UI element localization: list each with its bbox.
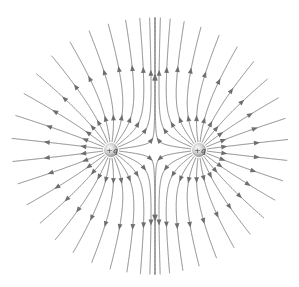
- arrow-icon: [86, 75, 93, 82]
- arrow-icon: [217, 130, 225, 137]
- arrow-icon: [43, 139, 49, 144]
- field-line: [205, 155, 275, 200]
- field-line: [187, 27, 201, 143]
- field-line: [159, 18, 192, 147]
- field-line: [206, 153, 283, 181]
- arrow-icon: [102, 115, 108, 122]
- field-line: [207, 151, 287, 160]
- field-line: [204, 156, 264, 218]
- arrow-icon: [127, 116, 134, 123]
- arrow-icon: [80, 151, 87, 156]
- arrow-icon: [157, 70, 162, 76]
- arrow-icon: [244, 181, 252, 188]
- arrow-icon: [111, 114, 116, 120]
- arrow-icon: [149, 219, 154, 225]
- arrow-icon: [202, 71, 208, 78]
- charge-right: +q: [192, 143, 206, 157]
- arrow-icon: [81, 136, 88, 143]
- arrow-icon: [102, 221, 108, 228]
- charge-label-left: +q: [106, 146, 118, 155]
- arrow-icon: [164, 67, 169, 73]
- field-line: [70, 42, 110, 142]
- arrow-icon: [201, 175, 207, 182]
- arrow-icon: [216, 162, 224, 169]
- field-line: [200, 158, 234, 248]
- field-line: [13, 151, 104, 162]
- field-line: [52, 56, 108, 143]
- arrow-icon: [169, 171, 176, 179]
- arrow-icon: [226, 203, 233, 211]
- arrow-icon: [80, 144, 87, 149]
- field-line: [118, 18, 151, 147]
- arrow-icon: [251, 125, 258, 132]
- arrow-icon: [84, 129, 92, 136]
- arrow-icon: [95, 119, 102, 127]
- charge-label-right: +q: [194, 146, 206, 155]
- arrow-icon: [43, 155, 49, 160]
- arrow-icon: [81, 157, 88, 164]
- arrow-icon: [201, 117, 207, 124]
- arrow-icon: [103, 176, 109, 183]
- arrow-icon: [207, 172, 214, 180]
- field-line: [119, 17, 155, 149]
- arrow-icon: [148, 70, 153, 76]
- field-line: [16, 115, 104, 146]
- field-line: [108, 24, 123, 143]
- arrow-icon: [254, 140, 260, 145]
- arrow-icon: [126, 175, 133, 182]
- arrow-icon: [177, 175, 184, 182]
- field-line: [176, 156, 194, 270]
- field-line: [187, 157, 199, 266]
- arrow-icon: [254, 154, 260, 159]
- arrow-icon: [156, 155, 164, 163]
- arrow-icon: [201, 218, 207, 225]
- arrow-icon: [194, 115, 199, 121]
- arrow-icon: [175, 66, 180, 72]
- arrow-icon: [111, 178, 116, 184]
- field-line: [36, 74, 106, 144]
- arrow-icon: [130, 65, 135, 71]
- arrow-icon: [214, 211, 221, 218]
- field-line: [204, 79, 268, 144]
- arrow-icon: [116, 66, 122, 73]
- arrow-icon: [133, 171, 140, 179]
- arrow-icon: [207, 120, 214, 128]
- arrow-icon: [177, 116, 184, 123]
- arrow-icon: [85, 163, 93, 170]
- field-line: [207, 140, 288, 150]
- field-line: [24, 94, 105, 146]
- charge-left: +q: [104, 143, 118, 157]
- arrow-icon: [141, 222, 146, 228]
- field-line: [40, 156, 106, 223]
- field-line: [176, 21, 194, 143]
- arrow-icon: [157, 219, 162, 225]
- field-line: [27, 155, 105, 205]
- field-line: [110, 157, 123, 269]
- arrow-icon: [51, 108, 59, 115]
- arrow-icon: [147, 155, 155, 163]
- arrow-icon: [47, 170, 54, 176]
- field-line: [116, 20, 134, 144]
- field-arrows: [43, 65, 260, 231]
- arrow-icon: [164, 222, 169, 228]
- field-line: [197, 158, 217, 258]
- arrow-icon: [219, 156, 226, 163]
- field-line: [205, 98, 278, 145]
- arrow-icon: [220, 137, 227, 144]
- arrow-icon: [188, 67, 194, 74]
- arrow-icon: [72, 83, 79, 91]
- field-line: [200, 47, 237, 143]
- arrow-icon: [130, 224, 135, 230]
- arrow-icon: [221, 151, 228, 157]
- arrow-icon: [95, 173, 102, 181]
- arrow-icon: [221, 144, 228, 150]
- arrow-icon: [246, 111, 254, 118]
- field-line: [155, 151, 191, 275]
- arrow-icon: [175, 223, 180, 229]
- field-line: [119, 151, 155, 275]
- field-line-diagram: +q +q: [0, 0, 299, 287]
- field-lines: [12, 17, 288, 274]
- arrow-icon: [74, 206, 81, 214]
- field-line: [12, 138, 103, 149]
- arrow-icon: [194, 177, 199, 183]
